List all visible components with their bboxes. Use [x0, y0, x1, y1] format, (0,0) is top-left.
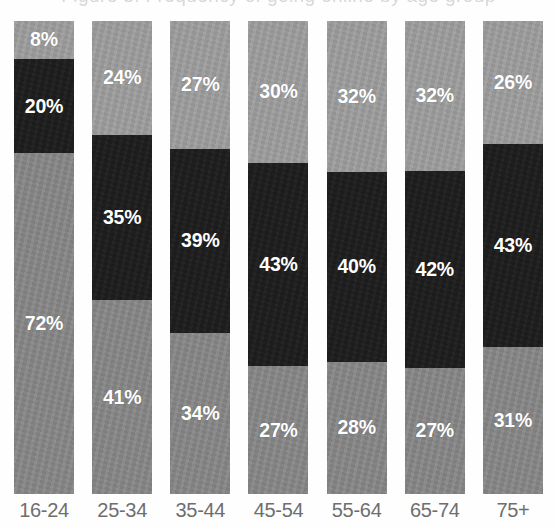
x-axis-tick-label: 45-54 — [248, 497, 308, 529]
bar-segment-value-label: 42% — [416, 258, 454, 281]
bar-segment-top[interactable]: 24% — [92, 21, 152, 135]
bar-segment-value-label: 32% — [416, 84, 454, 107]
cut-off-chart-title: Figure 3: Frequency of going online by a… — [0, 0, 557, 16]
bar-segment-bottom[interactable]: 34% — [170, 333, 230, 494]
bar-segment-top[interactable]: 8% — [14, 21, 74, 59]
bar-column[interactable]: 27%39%34% — [170, 21, 230, 494]
bar-segment-value-label: 8% — [30, 28, 58, 51]
x-axis-tick-label: 75+ — [483, 497, 543, 529]
x-axis-tick-label: 16-24 — [14, 497, 74, 529]
bar-segment-middle[interactable]: 43% — [248, 163, 308, 366]
bar-segment-value-label: 24% — [103, 66, 141, 89]
x-axis-tick-label: 55-64 — [327, 497, 387, 529]
bar-segment-middle[interactable]: 42% — [405, 171, 465, 368]
bar-segment-bottom[interactable]: 28% — [327, 362, 387, 494]
x-axis-tick-label: 65-74 — [405, 497, 465, 529]
bar-segment-middle[interactable]: 20% — [14, 59, 74, 154]
bar-segment-value-label: 30% — [259, 80, 297, 103]
cut-off-chart-title-text: Figure 3: Frequency of going online by a… — [61, 0, 495, 3]
bar-segment-value-label: 32% — [337, 85, 375, 108]
bar-segment-middle[interactable]: 39% — [170, 149, 230, 333]
x-axis-tick-label: 35-44 — [170, 497, 230, 529]
bar-segment-middle[interactable]: 43% — [483, 144, 543, 347]
bar-column[interactable]: 32%40%28% — [327, 21, 387, 494]
bar-segment-value-label: 27% — [416, 419, 454, 442]
bar-segment-value-label: 20% — [25, 95, 63, 118]
bar-segment-value-label: 28% — [337, 416, 375, 439]
stacked-bar-chart-figure: Figure 3: Frequency of going online by a… — [0, 0, 557, 529]
bar-segment-top[interactable]: 27% — [170, 21, 230, 149]
bar-segment-bottom[interactable]: 72% — [14, 153, 74, 494]
bar-column[interactable]: 26%43%31% — [483, 21, 543, 494]
bar-column[interactable]: 24%35%41% — [92, 21, 152, 494]
bar-segment-value-label: 40% — [337, 255, 375, 278]
bar-segment-top[interactable]: 30% — [248, 21, 308, 163]
bar-segment-top[interactable]: 32% — [405, 21, 465, 171]
bar-segment-value-label: 26% — [494, 71, 532, 94]
bar-segment-top[interactable]: 26% — [483, 21, 543, 144]
bar-column[interactable]: 8%20%72% — [14, 21, 74, 494]
bar-segment-bottom[interactable]: 31% — [483, 347, 543, 494]
bar-segment-value-label: 34% — [181, 402, 219, 425]
bar-segment-bottom[interactable]: 41% — [92, 300, 152, 494]
bar-segment-value-label: 43% — [259, 253, 297, 276]
bar-segment-value-label: 31% — [494, 409, 532, 432]
bar-segment-value-label: 27% — [259, 419, 297, 442]
x-axis-tick-label: 25-34 — [92, 497, 152, 529]
bar-segment-value-label: 39% — [181, 229, 219, 252]
bar-segment-top[interactable]: 32% — [327, 21, 387, 172]
bar-segment-value-label: 35% — [103, 206, 141, 229]
bar-column[interactable]: 32%42%27% — [405, 21, 465, 494]
bar-segment-value-label: 27% — [181, 73, 219, 96]
bar-column[interactable]: 30%43%27% — [248, 21, 308, 494]
bar-segment-value-label: 41% — [103, 386, 141, 409]
bar-segment-middle[interactable]: 35% — [92, 135, 152, 301]
bar-segment-middle[interactable]: 40% — [327, 172, 387, 361]
chart-plot-area: 8%20%72%24%35%41%27%39%34%30%43%27%32%40… — [0, 21, 557, 494]
bar-segment-bottom[interactable]: 27% — [405, 368, 465, 494]
bar-segment-value-label: 72% — [25, 312, 63, 335]
bar-segment-bottom[interactable]: 27% — [248, 366, 308, 494]
bar-segment-value-label: 43% — [494, 234, 532, 257]
x-axis-tick-labels: 16-2425-3435-4445-5455-6465-7475+ — [0, 497, 557, 529]
